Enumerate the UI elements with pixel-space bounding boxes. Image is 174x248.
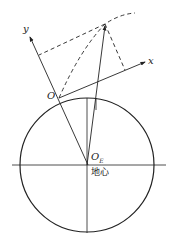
x-axis-label: x xyxy=(148,56,154,66)
diagram: y x O OE 地心 xyxy=(0,0,174,248)
position-vector xyxy=(87,26,105,165)
y-axis-label: y xyxy=(23,24,29,34)
x-axis-line xyxy=(59,62,145,98)
y-axis-line xyxy=(30,37,88,165)
geometry xyxy=(0,0,174,248)
earth-center-label: OE xyxy=(91,152,104,164)
earth-center-cn-label: 地心 xyxy=(91,168,109,177)
origin-label: O xyxy=(47,91,55,101)
